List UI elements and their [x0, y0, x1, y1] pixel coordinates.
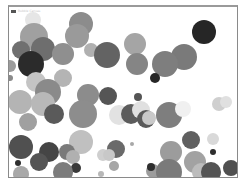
- app-icon: [11, 10, 16, 13]
- bubble: [98, 171, 104, 177]
- bubble: [19, 113, 37, 131]
- bubble: [9, 135, 33, 159]
- bubble: [207, 133, 219, 145]
- bubble: [94, 42, 120, 68]
- window-title: Bubble Canvas: [18, 9, 40, 13]
- bubble: [126, 53, 148, 75]
- bubble: [15, 160, 21, 166]
- bubble: [150, 73, 160, 83]
- bubble: [66, 150, 80, 164]
- bubble: [53, 162, 73, 178]
- title-bar: Bubble Canvas: [11, 8, 40, 14]
- bubble-canvas[interactable]: [9, 7, 237, 177]
- bubble: [147, 163, 155, 171]
- bubble: [220, 96, 232, 108]
- bubble: [8, 90, 32, 114]
- bubble: [30, 153, 48, 171]
- bubble: [201, 162, 221, 178]
- bubble: [210, 149, 216, 155]
- bubble: [44, 104, 64, 124]
- bubble: [52, 43, 74, 65]
- bubble: [13, 166, 29, 178]
- bubble: [8, 75, 13, 81]
- bubble: [156, 159, 182, 178]
- bubble: [99, 87, 117, 105]
- bubble: [124, 33, 146, 55]
- bubble: [175, 101, 191, 117]
- window-frame: Bubble Canvas: [8, 5, 238, 178]
- bubble: [134, 93, 142, 101]
- bubble: [142, 111, 156, 125]
- bubble: [130, 142, 134, 146]
- bubble: [182, 131, 200, 149]
- bubble: [69, 100, 97, 128]
- bubble: [192, 20, 216, 44]
- bubble: [103, 149, 115, 161]
- bubble: [109, 161, 119, 171]
- bubble: [223, 160, 238, 176]
- bubble: [8, 60, 16, 72]
